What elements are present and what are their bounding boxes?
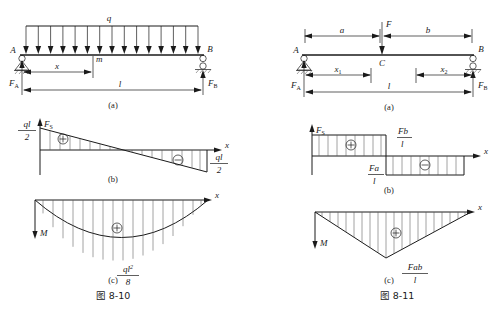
- moment-value: ql2 8: [117, 264, 139, 288]
- shear-block-negative: [386, 156, 464, 175]
- moment-diagram-c: x M: [312, 202, 482, 285]
- reaction-label-fa: FA: [290, 80, 302, 91]
- load-point-label-c: C: [379, 58, 386, 68]
- svg-text:ql: ql: [215, 152, 223, 162]
- load-label-f: F: [385, 19, 392, 29]
- shear-hatch-positive: [50, 131, 118, 150]
- dimension-label-l: l: [119, 79, 122, 89]
- part-label-c: (c): [384, 275, 394, 285]
- figure-8-11-canvas: F C a b A B: [252, 0, 504, 310]
- moment-hatch: [322, 212, 465, 258]
- support-label-a: A: [292, 45, 299, 55]
- part-label-a: (a): [384, 102, 394, 112]
- moment-sign-positive: [112, 223, 122, 233]
- svg-text:2: 2: [25, 132, 30, 142]
- dimension-l: [23, 88, 202, 93]
- dimension-label-x1: x1: [334, 64, 342, 75]
- part-label-b: (b): [384, 185, 394, 195]
- svg-text:ql2: ql2: [123, 264, 133, 275]
- moment-y-label: M: [319, 238, 328, 248]
- support-label-b: B: [207, 44, 213, 54]
- shear-sign-negative: [173, 155, 183, 165]
- beam-diagram-a: q A B: [8, 13, 218, 110]
- svg-text:Fb: Fb: [397, 126, 408, 136]
- moment-x-label: x: [214, 190, 219, 200]
- reaction-label-fb: FB: [207, 78, 218, 89]
- moment-y-arrow: [32, 231, 37, 239]
- figure-caption-right: 图 8-11: [380, 290, 415, 301]
- moment-value: Fab l: [402, 262, 428, 285]
- svg-text:l: l: [373, 176, 376, 186]
- moment-hatch: [43, 200, 201, 261]
- reaction-label-fa: FA: [8, 78, 20, 89]
- dimension-label-b: b: [426, 25, 431, 35]
- part-label-b: (b): [108, 174, 118, 184]
- shear-y-label: FS: [315, 125, 325, 136]
- moment-sign-positive: [391, 228, 401, 238]
- shear-y-arrow: [37, 118, 42, 126]
- shear-sign-positive: [58, 134, 68, 144]
- part-label-a: (a): [108, 100, 118, 110]
- shear-diagram-b: FS x: [18, 118, 229, 184]
- reaction-arrow-right: [200, 70, 205, 95]
- svg-text:Fa: Fa: [368, 163, 379, 173]
- shear-x-label: x: [483, 146, 488, 156]
- moment-x-label: x: [477, 202, 482, 212]
- shear-hatch-positive: [319, 135, 381, 156]
- figure-8-10-canvas: q A B: [0, 0, 252, 310]
- dimension-label-x: x: [54, 61, 59, 71]
- shear-y-arrow: [309, 124, 314, 132]
- shear-x-label: x: [224, 140, 229, 150]
- shear-value-right: ql 2: [210, 152, 228, 175]
- shear-hatch-negative: [393, 156, 456, 175]
- figure-8-11: F C a b A B: [252, 0, 504, 310]
- shear-value-negative: Fa l: [368, 163, 384, 186]
- support-label-a: A: [9, 45, 16, 55]
- shear-x-arrow: [473, 153, 481, 158]
- shear-diagram-b: FS x: [309, 124, 488, 195]
- svg-text:2: 2: [217, 165, 222, 175]
- reaction-arrow-left: [301, 60, 306, 97]
- section-label-m: m: [96, 54, 103, 64]
- svg-text:l: l: [401, 139, 404, 149]
- distributed-load-arrows: [23, 26, 201, 54]
- dimension-label-l: l: [388, 81, 391, 91]
- shear-y-label: FS: [43, 119, 53, 130]
- shear-sign-positive: [346, 140, 356, 150]
- support-label-b: B: [478, 44, 484, 54]
- reaction-label-fb: FB: [477, 80, 488, 91]
- moment-y-label: M: [39, 228, 48, 238]
- shear-sign-negative: [420, 160, 430, 170]
- load-label-q: q: [107, 13, 112, 23]
- svg-text:8: 8: [126, 277, 131, 287]
- figure-8-10: q A B: [0, 0, 252, 310]
- moment-y-arrow: [312, 241, 317, 249]
- moment-parabola: [35, 200, 208, 238]
- figure-caption-left: 图 8-10: [96, 290, 131, 301]
- reaction-arrow-right: [470, 70, 475, 97]
- svg-text:ql: ql: [23, 119, 31, 129]
- moment-diagram-c: x M: [32, 190, 219, 287]
- moment-triangle: [315, 212, 471, 258]
- shear-value-positive: Fb l: [397, 126, 412, 149]
- beam-diagram-a: F C a b A B: [290, 19, 488, 112]
- svg-text:l: l: [414, 275, 417, 285]
- part-label-c: (c): [108, 275, 118, 285]
- shear-value-left: ql 2: [18, 119, 36, 142]
- svg-text:Fab: Fab: [407, 262, 423, 272]
- dimension-label-x2: x2: [440, 64, 448, 75]
- dimension-label-a: a: [340, 25, 345, 35]
